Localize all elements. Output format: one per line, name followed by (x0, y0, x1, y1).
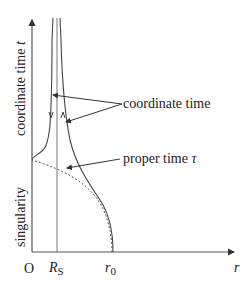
r0-sub: 0 (110, 265, 116, 277)
coordinate-time-curve-outer (60, 18, 113, 252)
pointer-proper-time (67, 159, 120, 168)
spacetime-diagram (0, 0, 249, 293)
r-axis-label: r (234, 261, 239, 275)
arrow-up-icon (61, 112, 65, 118)
proper-time-text: proper time (123, 151, 188, 166)
coordinate-time-annotation: coordinate time (123, 97, 210, 111)
rs-sub: S (58, 265, 64, 277)
singularity-label: singularity (14, 187, 28, 247)
singularity-text: singularity (13, 187, 28, 247)
y-axis-label-text: coordinate time (13, 49, 28, 136)
r0-tick-label: r0 (105, 261, 116, 275)
tau-symbol: τ (191, 151, 196, 166)
rs-label: R (49, 260, 58, 275)
y-axis-label: coordinate time t (14, 41, 28, 136)
proper-time-curve (32, 160, 112, 252)
rs-tick-label: RS (49, 261, 64, 275)
proper-time-annotation: proper time τ (123, 152, 196, 166)
pointer-coordinate-time-2 (66, 104, 122, 122)
y-axis-symbol: t (13, 41, 28, 45)
coordinate-time-curve-inner (32, 18, 53, 160)
pointer-coordinate-time-1 (53, 95, 122, 104)
origin-label: O (24, 262, 34, 276)
